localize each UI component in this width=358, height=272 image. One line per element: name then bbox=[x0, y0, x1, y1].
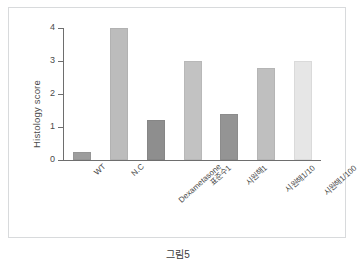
bar bbox=[73, 152, 91, 160]
bar-series bbox=[64, 28, 321, 160]
x-axis-tick-label: 시원해1/10 bbox=[282, 162, 317, 195]
y-axis-tick-label: 0 bbox=[50, 154, 55, 164]
x-axis-tick-label: WT bbox=[93, 162, 108, 177]
bar bbox=[220, 114, 238, 160]
bar bbox=[294, 61, 312, 160]
figure-caption: 그림5 bbox=[0, 246, 356, 261]
figure-card: Histology score 01234 WTN.CDexametasone표… bbox=[8, 7, 346, 238]
x-axis-tick-label: 표준수1 bbox=[206, 162, 232, 187]
y-axis-tick-label: 4 bbox=[50, 22, 55, 32]
x-axis-tick-label: 시원해1/100 bbox=[320, 162, 358, 198]
x-axis-line bbox=[63, 160, 321, 161]
x-axis-tick-label: N.C bbox=[130, 162, 146, 178]
bar bbox=[257, 68, 275, 160]
y-axis-tick-label: 1 bbox=[50, 121, 55, 131]
y-axis-tick-label: 2 bbox=[50, 88, 55, 98]
x-axis-tick-label: 시원해1 bbox=[243, 162, 269, 187]
bar bbox=[184, 61, 202, 160]
y-axis-tick-label: 3 bbox=[50, 55, 55, 65]
x-axis-tick-labels: WTN.CDexametasone표준수1시원해1시원해1/10시원해1/100 bbox=[64, 162, 321, 232]
y-axis-tick: 0 bbox=[58, 160, 64, 161]
y-axis-label: Histology score bbox=[31, 62, 43, 166]
bar-chart-plot: Histology score 01234 WTN.CDexametasone표… bbox=[9, 8, 345, 237]
bar bbox=[147, 120, 165, 160]
bar bbox=[110, 28, 128, 160]
